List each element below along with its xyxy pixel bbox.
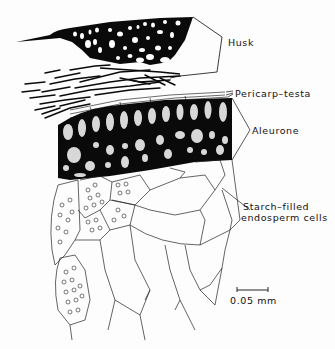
- husk-layer: [16, 17, 222, 78]
- label-endosperm-cells: endosperm cells: [241, 212, 328, 223]
- grain-cross-section-drawing: [0, 0, 335, 349]
- endosperm-cells: [51, 160, 250, 340]
- label-pericarp-testa: Pericarp–testa: [235, 88, 311, 99]
- label-aleurone: Aleurone: [252, 125, 299, 136]
- scale-bar: [237, 287, 268, 292]
- scale-bar-label: 0.05 mm: [230, 295, 277, 306]
- label-starch-filled: Starch–filled: [243, 201, 309, 212]
- aleurone-layer: [58, 98, 232, 180]
- label-husk: Husk: [228, 37, 254, 48]
